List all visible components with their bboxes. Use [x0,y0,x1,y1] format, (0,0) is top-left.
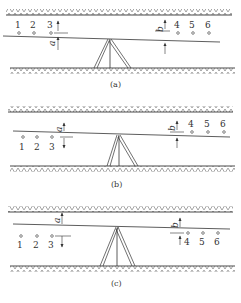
panel-a: 1 2 3 4 5 6 a b [3,9,235,89]
points-left: 1 2 3 [15,20,53,34]
point-label-5: 5 [189,20,195,30]
ceiling-ground [8,106,233,112]
point-label-1: 1 [19,142,25,152]
caption-b: (b) [111,180,122,189]
sight-line [13,224,230,229]
level-instrument-tripod [100,227,135,266]
reading-b: b [170,218,184,246]
reading-label-b: b [170,222,180,228]
point-label-3: 3 [47,20,53,30]
reading-b: b [155,20,170,55]
reading-label-a: a [54,127,64,132]
level-instrument-tripod [107,135,138,166]
panel-b: 1 2 3 4 5 6 a b [8,106,235,189]
point-label-6: 6 [220,119,226,129]
floor-ground [10,166,235,172]
point-label-3: 3 [48,240,54,250]
points-right: 4 5 6 [188,119,226,133]
sight-line [13,131,230,137]
point-label-2: 2 [30,20,36,30]
caption-a: (a) [110,80,121,89]
point-label-2: 2 [34,142,40,152]
panel-c: 1 2 3 4 5 6 a b [8,206,235,288]
floor-ground [10,68,235,74]
reading-label-a: a [47,41,57,46]
reading-label-b: b [155,26,165,32]
points-right: 4 5 6 [184,232,220,247]
point-label-1: 1 [15,20,21,30]
point-label-3: 3 [49,142,55,152]
points-left: 1 2 3 [19,136,55,152]
floor-ground [10,266,235,272]
caption-c: (c) [111,279,122,288]
point-label-4: 4 [174,20,180,30]
reading-a: a [52,213,71,248]
leveling-diagram: 1 2 3 4 5 6 a b [0,0,241,303]
ceiling-ground [8,206,233,212]
reading-label-a: a [52,218,62,223]
sight-line [3,36,220,42]
point-label-6: 6 [205,20,211,30]
points-right: 4 5 6 [174,20,211,34]
point-label-2: 2 [33,240,39,250]
point-label-4: 4 [188,119,194,129]
point-label-5: 5 [204,119,210,129]
reading-b: b [167,121,184,149]
reading-a: a [54,123,73,149]
reading-label-b: b [167,125,177,131]
point-label-4: 4 [184,237,190,247]
points-left: 1 2 3 [17,235,54,250]
point-label-1: 1 [17,240,23,250]
point-label-6: 6 [214,237,220,247]
point-label-5: 5 [199,237,205,247]
level-instrument-tripod [94,39,131,68]
ceiling-ground [6,9,232,15]
